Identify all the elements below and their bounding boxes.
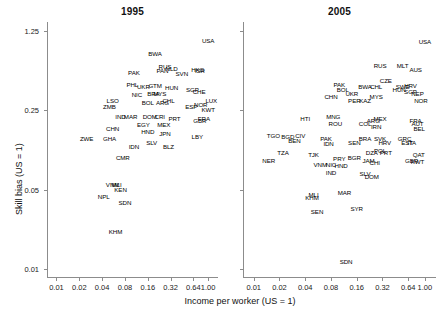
data-point-label: IRN — [371, 123, 381, 129]
data-point-label: ROU — [329, 121, 342, 127]
data-point-label: LBY — [192, 134, 203, 140]
y-tick-label: 1.25 — [6, 26, 39, 35]
y-tick — [44, 190, 47, 191]
x-tick-label: 1.00 — [418, 283, 433, 292]
data-point-label: GTM — [148, 83, 161, 89]
y-tick — [44, 269, 47, 270]
panel-title-1995: 1995 — [121, 6, 144, 17]
data-point-label: CHN — [324, 94, 337, 100]
x-tick-label: 1.00 — [201, 283, 216, 292]
data-point-label: UKR — [345, 91, 358, 97]
data-point-label: IDN — [129, 143, 139, 149]
y-tick — [240, 31, 243, 32]
data-point-label: IND — [326, 170, 336, 176]
x-tick — [193, 278, 194, 281]
data-point-label: BEL — [414, 126, 425, 132]
x-tick-label: 0.04 — [95, 283, 110, 292]
data-point-label: MAR — [338, 190, 351, 196]
figure-scatter-skill-bias: Skill bias (US = 1) Income per worker (U… — [0, 0, 447, 316]
y-tick — [240, 190, 243, 191]
data-point-label: NEP — [411, 91, 423, 97]
data-point-label: CHL — [370, 84, 382, 90]
x-tick-label: 0.01 — [246, 283, 261, 292]
data-point-label: KWT — [411, 159, 424, 165]
data-point-label: BOL — [142, 100, 154, 106]
data-point-label: BLZ — [163, 143, 174, 149]
data-point-label: TJK — [308, 152, 319, 158]
x-tick — [357, 278, 358, 281]
y-tick-label: 0.25 — [6, 106, 39, 115]
data-point-label: ZWE — [80, 136, 93, 142]
x-tick — [254, 278, 255, 281]
x-tick-label: 0.08 — [118, 283, 133, 292]
data-point-label: IDN — [323, 141, 333, 147]
y-tick-label: 0.01 — [6, 264, 39, 273]
x-tick — [305, 278, 306, 281]
y-tick — [44, 110, 47, 111]
data-point-label: HRV — [378, 139, 391, 145]
data-point-label: BGR — [348, 155, 361, 161]
data-point-label: TGO — [267, 132, 280, 138]
data-point-label: AUS — [409, 67, 421, 73]
x-tick — [425, 278, 426, 281]
data-point-label: USA — [419, 39, 431, 45]
plot-area-1995: USABWARUSPANNLDSVNHKGISRPAKPHLUKRGTMHUNS… — [47, 22, 218, 277]
x-tick-label: 0.32 — [375, 283, 390, 292]
data-point-label: CZE — [380, 78, 392, 84]
data-point-label: HND — [335, 163, 348, 169]
data-point-label: BEN — [288, 138, 300, 144]
x-tick — [279, 278, 280, 281]
data-point-label: SDN — [340, 259, 353, 265]
data-point-label: ITA — [407, 139, 416, 145]
data-point-label: CHN — [106, 126, 119, 132]
data-point-label: KHM — [305, 195, 318, 201]
data-point-label: MEX — [374, 116, 387, 122]
data-point-label: MEX — [157, 122, 170, 128]
data-point-label: HND — [141, 129, 154, 135]
data-point-label: MYS — [153, 91, 166, 97]
data-point-label: MAR — [124, 114, 137, 120]
data-point-label: USA — [202, 38, 214, 44]
data-point-label: MLT — [397, 62, 409, 68]
plot-area-2005: USARUSMLTAUSPAKBOLBWACHLCZESWEHRVCHNUKRP… — [243, 22, 436, 277]
data-point-label: KHM — [109, 229, 122, 235]
data-point-label: DOM — [365, 174, 379, 180]
data-point-label: SDN — [119, 200, 132, 206]
data-point-label: TZA — [277, 150, 288, 156]
x-axis-line — [47, 277, 218, 278]
data-point-label: CHE — [193, 89, 206, 95]
data-point-label: NIC — [132, 92, 142, 98]
x-tick-label: 0.02 — [72, 283, 87, 292]
data-point-label: GHA — [103, 136, 116, 142]
data-point-label: NPL — [98, 194, 110, 200]
data-point-label: CMR — [116, 155, 130, 161]
x-tick-label: 0.02 — [272, 283, 287, 292]
x-tick-label: 0.04 — [298, 283, 313, 292]
data-point-label: CRI — [155, 114, 165, 120]
data-point-label: CHL — [162, 98, 174, 104]
x-tick — [102, 278, 103, 281]
data-point-label: HTI — [300, 116, 310, 122]
data-point-label: SVN — [176, 71, 188, 77]
data-point-label: PAK — [128, 70, 140, 76]
y-tick — [240, 269, 243, 270]
data-point-label: NER — [262, 158, 275, 164]
x-tick — [331, 278, 332, 281]
data-point-label: CHI — [370, 160, 380, 166]
data-point-label: SEN — [311, 209, 323, 215]
x-tick — [56, 278, 57, 281]
x-tick — [125, 278, 126, 281]
data-point-label: MYS — [370, 94, 383, 100]
x-tick-label: 0.16 — [349, 283, 364, 292]
x-tick-label: 0.01 — [49, 283, 64, 292]
panel-title-2005: 2005 — [328, 6, 351, 17]
data-point-label: HUN — [165, 85, 178, 91]
x-tick-label: 0.08 — [324, 283, 339, 292]
data-point-label: ZMB — [103, 103, 116, 109]
x-axis-title: Income per worker (US = 1) — [185, 296, 296, 306]
data-point-label: PRT — [380, 150, 392, 156]
y-tick-label: 0.05 — [6, 185, 39, 194]
x-tick-label: 0.64 — [401, 283, 416, 292]
data-point-label: SLV — [146, 139, 157, 145]
y-tick — [240, 110, 243, 111]
